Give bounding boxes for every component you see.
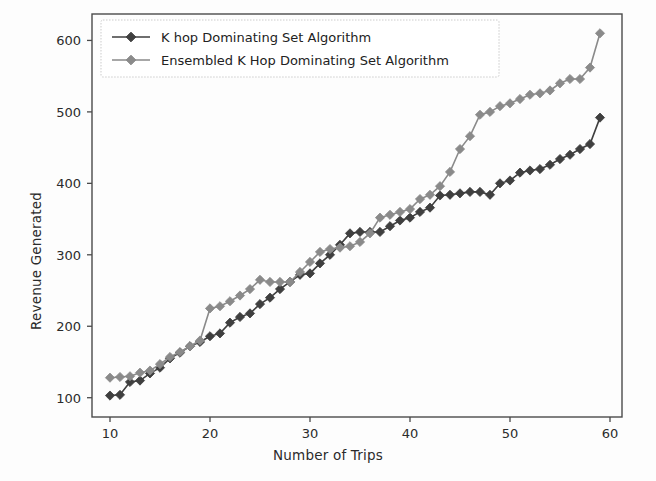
data-point-marker [485,107,494,116]
data-series [105,113,604,400]
x-tick-label: 30 [302,426,319,441]
x-tick-label: 10 [102,426,119,441]
y-tick-label: 300 [56,248,81,263]
data-point-marker [225,297,234,306]
data-point-marker [565,150,574,159]
data-point-marker [265,277,274,286]
data-series [105,29,604,383]
data-point-marker [465,187,474,196]
data-point-marker [535,164,544,173]
data-point-marker [545,160,554,169]
data-point-marker [475,187,484,196]
data-point-marker [565,74,574,83]
data-point-marker [125,372,134,381]
legend-label: K hop Dominating Set Algorithm [161,30,371,45]
data-point-marker [475,110,484,119]
x-tick-label: 20 [202,426,219,441]
y-tick-label: 500 [56,105,81,120]
data-point-marker [575,144,584,153]
x-tick-label: 40 [402,426,419,441]
legend-label: Ensembled K Hop Dominating Set Algorithm [161,53,449,68]
data-point-marker [555,154,564,163]
data-point-marker [395,207,404,216]
y-tick-label: 600 [56,33,81,48]
data-point-marker [135,368,144,377]
data-point-marker [585,139,594,148]
data-point-marker [185,342,194,351]
x-tick-label: 50 [502,426,519,441]
data-point-marker [275,277,284,286]
data-point-marker [385,210,394,219]
y-tick-label: 400 [56,176,81,191]
data-series-group [105,29,604,400]
y-tick-label: 100 [56,391,81,406]
data-point-marker [515,94,524,103]
x-tick-label: 60 [602,426,619,441]
y-tick-label: 200 [56,319,81,334]
data-point-marker [205,304,214,313]
data-point-marker [235,312,244,321]
chart-legend: K hop Dominating Set AlgorithmEnsembled … [101,20,499,77]
data-point-marker [375,213,384,222]
data-point-marker [355,227,364,236]
data-point-marker [525,90,534,99]
data-point-marker [235,291,244,300]
data-point-marker [395,216,404,225]
chart-figure: 102030405060100200300400500600 K hop Dom… [0,0,656,481]
legend-box [101,20,499,77]
data-point-marker [345,242,354,251]
data-point-marker [595,29,604,38]
data-point-marker [455,189,464,198]
data-point-marker [105,373,114,382]
data-point-marker [375,227,384,236]
data-point-marker [105,391,114,400]
data-point-marker [415,207,424,216]
data-point-marker [115,372,124,381]
data-point-marker [495,102,504,111]
series-line [110,33,600,377]
data-point-marker [595,113,604,122]
y-axis-label: Revenue Generated [28,192,44,330]
data-point-marker [535,89,544,98]
data-point-marker [215,302,224,311]
line-chart-canvas: 102030405060100200300400500600 K hop Dom… [0,0,656,481]
x-axis-label: Number of Trips [0,447,656,463]
data-point-marker [525,166,534,175]
data-point-marker [505,99,514,108]
data-point-marker [205,332,214,341]
data-point-marker [405,213,414,222]
data-point-marker [385,222,394,231]
data-point-marker [445,190,454,199]
